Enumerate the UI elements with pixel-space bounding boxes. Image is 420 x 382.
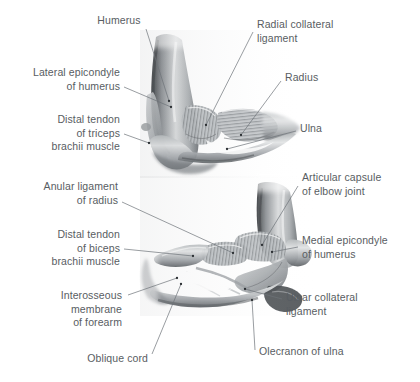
anchor-dot-articular-capsule-of-elbow-joint [261,244,263,246]
anchor-dot-interosseous-membrane-of-forearm [176,277,178,279]
label-ulnar-collateral-ligament: Ulnar collateral ligament [286,291,402,318]
anatomy-figure: HumerusLateral epicondyle of humerusDist… [0,0,420,382]
anchor-dot-distal-tendon-of-triceps-brachii-muscle [148,142,150,144]
label-lateral-epicondyle-of-humerus: Lateral epicondyle of humerus [8,66,120,93]
label-distal-tendon-of-triceps-brachii-muscle: Distal tendon of triceps brachii muscle [8,113,120,154]
anchor-dot-lateral-epicondyle-of-humerus [170,106,172,108]
anchor-dot-anular-ligament-of-radius [232,252,234,254]
label-distal-tendon-of-biceps-brachii-muscle: Distal tendon of biceps brachii muscle [8,228,120,269]
label-medial-epicondyle-of-humerus: Medial epicondyle of humerus [302,234,418,261]
anchor-dot-medial-epicondyle-of-humerus [271,251,273,253]
anchor-dot-ulnar-collateral-ligament [244,288,246,290]
anchor-dot-ulna [226,148,228,150]
anchor-dot-radius [240,134,242,136]
anchor-dot-humerus [168,100,170,102]
anchor-dot-radial-collateral-ligament [205,124,207,126]
label-oblique-cord: Oblique cord [60,352,148,366]
anchor-dot-oblique-cord [180,283,182,285]
label-radius: Radius [285,71,345,85]
label-olecranon-of-ulna: Olecranon of ulna [259,345,375,359]
label-humerus: Humerus [93,14,145,28]
label-radial-collateral-ligament: Radial collateral ligament [257,18,377,45]
label-ulna: Ulna [300,122,350,136]
label-interosseous-membrane-of-forearm: Interosseous membrane of forearm [8,289,122,330]
label-anular-ligament-of-radius: Anular ligament of radius [8,180,118,207]
anchor-dot-distal-tendon-of-biceps-brachii-muscle [192,255,194,257]
label-articular-capsule-of-elbow-joint: Articular capsule of elbow joint [302,171,418,198]
anchor-dot-olecranon-of-ulna [251,299,253,301]
